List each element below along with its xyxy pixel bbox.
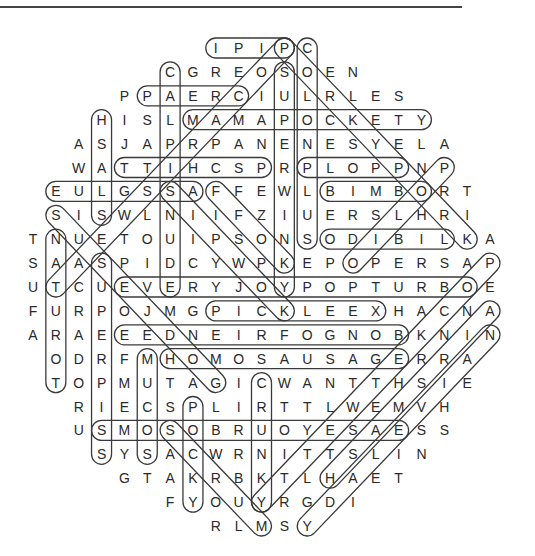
grid-letter[interactable]: P [206,134,226,154]
grid-letter[interactable]: R [206,516,226,536]
grid-letter[interactable]: T [114,229,134,249]
grid-letter[interactable]: U [23,277,43,297]
grid-letter[interactable]: C [320,110,340,130]
grid-letter[interactable]: O [252,277,272,297]
grid-letter[interactable]: I [229,325,249,345]
grid-letter[interactable]: E [320,420,340,440]
grid-letter[interactable]: U [69,181,89,201]
grid-letter[interactable]: E [114,325,134,345]
grid-letter[interactable]: O [297,325,317,345]
grid-letter[interactable]: E [160,277,180,297]
grid-letter[interactable]: N [252,134,272,154]
grid-letter[interactable]: J [229,277,249,297]
grid-letter[interactable]: O [274,420,294,440]
grid-letter[interactable]: R [411,277,431,297]
grid-letter[interactable]: G [114,468,134,488]
grid-letter[interactable]: D [320,492,340,512]
grid-letter[interactable]: N [343,62,363,82]
grid-letter[interactable]: P [480,253,500,273]
grid-letter[interactable]: R [434,349,454,369]
grid-letter[interactable]: O [343,158,363,178]
grid-letter[interactable]: N [411,158,431,178]
grid-letter[interactable]: W [114,205,134,225]
grid-letter[interactable]: T [457,181,477,201]
grid-letter[interactable]: S [137,181,157,201]
grid-letter[interactable]: G [320,325,340,345]
grid-letter[interactable]: U [389,277,409,297]
grid-letter[interactable]: C [160,62,180,82]
grid-letter[interactable]: U [69,420,89,440]
grid-letter[interactable]: T [389,468,409,488]
grid-letter[interactable]: B [389,325,409,345]
grid-letter[interactable]: C [434,301,454,321]
grid-letter[interactable]: F [114,349,134,369]
grid-letter[interactable]: P [274,110,294,130]
grid-letter[interactable]: O [114,301,134,321]
grid-letter[interactable]: N [183,325,203,345]
grid-letter[interactable]: A [69,134,89,154]
grid-letter[interactable]: E [274,134,294,154]
grid-letter[interactable]: G [366,349,386,369]
grid-letter[interactable]: U [274,86,294,106]
grid-letter[interactable]: F [229,205,249,225]
grid-letter[interactable]: T [297,397,317,417]
grid-letter[interactable]: H [160,349,180,369]
grid-letter[interactable]: R [434,181,454,201]
grid-letter[interactable]: M [160,301,180,321]
grid-letter[interactable]: P [252,253,272,273]
grid-letter[interactable]: C [297,38,317,58]
grid-letter[interactable]: L [92,181,112,201]
grid-letter[interactable]: E [389,420,409,440]
grid-letter[interactable]: L [389,205,409,225]
grid-letter[interactable]: L [229,516,249,536]
grid-letter[interactable]: A [457,253,477,273]
grid-letter[interactable]: Y [366,134,386,154]
grid-letter[interactable]: S [434,420,454,440]
grid-letter[interactable]: M [183,110,203,130]
grid-letter[interactable]: L [206,397,226,417]
grid-letter[interactable]: I [206,205,226,225]
grid-letter[interactable]: P [274,38,294,58]
grid-letter[interactable]: A [160,86,180,106]
grid-letter[interactable]: E [343,301,363,321]
grid-letter[interactable]: S [92,205,112,225]
grid-letter[interactable]: D [160,253,180,273]
grid-letter[interactable]: C [252,373,272,393]
grid-letter[interactable]: L [320,158,340,178]
grid-letter[interactable]: P [229,38,249,58]
grid-letter[interactable]: Z [252,205,272,225]
grid-letter[interactable]: R [274,158,294,178]
grid-letter[interactable]: N [160,205,180,225]
grid-letter[interactable]: Y [206,253,226,273]
grid-letter[interactable]: A [69,253,89,273]
grid-letter[interactable]: V [137,277,157,297]
grid-letter[interactable]: I [274,444,294,464]
grid-letter[interactable]: A [229,134,249,154]
grid-letter[interactable]: L [366,444,386,464]
grid-letter[interactable]: R [206,62,226,82]
grid-letter[interactable]: E [229,62,249,82]
grid-letter[interactable]: M [229,110,249,130]
grid-letter[interactable]: I [183,229,203,249]
grid-letter[interactable]: S [160,420,180,440]
grid-letter[interactable]: A [92,158,112,178]
grid-letter[interactable]: F [160,492,180,512]
grid-letter[interactable]: S [137,444,157,464]
grid-letter[interactable]: I [206,38,226,58]
grid-letter[interactable]: S [252,349,272,369]
grid-letter[interactable]: U [229,492,249,512]
grid-letter[interactable]: P [343,277,363,297]
grid-letter[interactable]: O [320,229,340,249]
grid-letter[interactable]: R [252,397,272,417]
grid-letter[interactable]: L [297,301,317,321]
grid-letter[interactable]: O [137,420,157,440]
grid-letter[interactable]: A [46,253,66,273]
grid-letter[interactable]: C [229,86,249,106]
grid-letter[interactable]: V [411,397,431,417]
grid-letter[interactable]: K [457,229,477,249]
grid-letter[interactable]: I [389,444,409,464]
grid-letter[interactable]: A [297,373,317,393]
grid-letter[interactable]: C [206,158,226,178]
grid-letter[interactable]: P [297,277,317,297]
grid-letter[interactable]: S [343,134,363,154]
